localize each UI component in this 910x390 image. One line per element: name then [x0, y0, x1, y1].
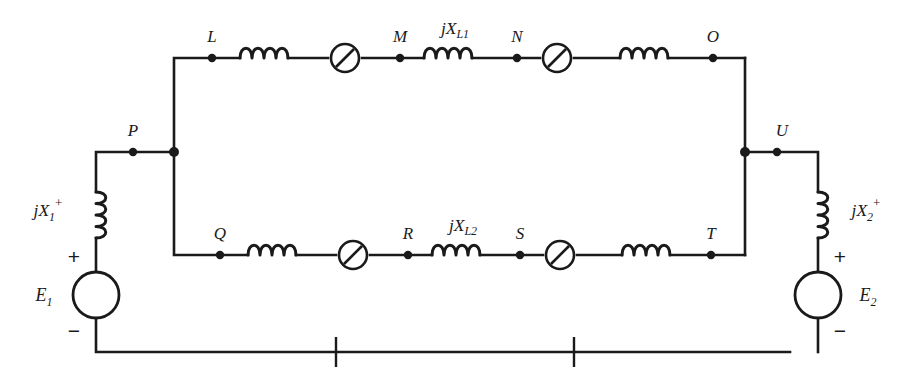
reactance-label-right-source: jX2+: [850, 195, 881, 224]
top-left-riser-wire: [174, 58, 240, 152]
voltage-source-icon-E2: [795, 272, 841, 318]
source-label-E1-sub: 1: [47, 295, 53, 309]
node-label-O: O: [707, 27, 719, 46]
right-source-top-wire: [745, 152, 818, 192]
node-label-R: R: [402, 224, 414, 243]
node-label-Q: Q: [214, 224, 226, 243]
node-label-L: L: [206, 27, 216, 46]
inductor-coil-icon-top-3: [620, 48, 668, 58]
source-label-E1: E1: [35, 285, 53, 309]
inductor-coil-icon-top-2: [424, 48, 472, 58]
schematic-svg: L M N O jXL1: [0, 0, 910, 390]
polarity-plus-E1: +: [68, 245, 80, 268]
source-label-E1-base: E: [35, 285, 47, 305]
inductor-coil-icon-bottom-3: [622, 245, 670, 255]
node-label-U: U: [776, 121, 790, 140]
inductor-coil-icon-top-1: [240, 48, 288, 58]
polarity-plus-E2: +: [834, 245, 846, 268]
circuit-breaker-icon-top-2: [543, 44, 571, 72]
reactance-label-top-sub: L1: [455, 27, 469, 41]
reactance-label-left-base: jX: [32, 200, 51, 220]
reactance-label-right-base: jX: [850, 200, 869, 220]
junction-dot-icon-T: [707, 251, 715, 259]
source-label-E2-sub: 2: [871, 295, 877, 309]
voltage-source-icon-E1: [73, 272, 119, 318]
reactance-label-right-sup: +: [873, 195, 880, 210]
reactance-label-bottom-base: jX: [447, 215, 466, 235]
node-label-S: S: [516, 224, 525, 243]
junction-dot-icon-Q: [216, 251, 224, 259]
node-label-N: N: [510, 27, 524, 46]
junction-dot-icon-right-riser: [740, 147, 750, 157]
junction-dot-icon-P: [129, 148, 137, 156]
inductor-coil-icon-bottom-2: [432, 245, 480, 255]
bottom-line-branch: Q R S T jXL2: [174, 152, 745, 269]
junction-dot-icon-M: [396, 54, 404, 62]
junction-dot-icon-S: [516, 251, 524, 259]
polarity-minus-E2: −: [834, 319, 846, 342]
inductor-coil-icon-left-source: [96, 192, 106, 238]
left-source-top-wire: [96, 152, 174, 192]
junction-dot-icon-O: [709, 54, 717, 62]
junction-dot-icon-N: [513, 54, 521, 62]
bottom-left-riser-wire: [174, 152, 248, 255]
junction-dot-icon-U: [773, 148, 781, 156]
inductor-coil-icon-right-source: [818, 192, 828, 238]
reactance-label-bottom-line: jXL2: [447, 215, 477, 238]
junction-dot-icon-R: [404, 251, 412, 259]
inductor-coil-icon-bottom-1: [248, 245, 296, 255]
junction-dot-icon-L: [208, 54, 216, 62]
circuit-breaker-icon-top-1: [331, 44, 359, 72]
node-label-P: P: [127, 121, 138, 140]
node-label-M: M: [392, 27, 408, 46]
reactance-label-top-line: jXL1: [439, 18, 469, 41]
circuit-breaker-icon-bottom-2: [546, 241, 574, 269]
node-label-T: T: [706, 224, 717, 243]
circuit-breaker-icon-bottom-1: [339, 241, 367, 269]
reactance-label-left-sub: 1: [49, 210, 55, 224]
reactance-label-left-sup: +: [55, 195, 62, 210]
reactance-label-bottom-sub: L2: [463, 224, 477, 238]
bottom-return-wire: [96, 318, 790, 352]
reactance-label-right-sub: 2: [867, 210, 873, 224]
source-label-E2: E2: [859, 285, 877, 309]
right-source-branch: U jX2+ + − E2: [740, 121, 880, 352]
circuit-diagram-canvas: L M N O jXL1: [0, 0, 910, 390]
polarity-minus-E1: −: [68, 319, 80, 342]
source-label-E2-base: E: [859, 285, 871, 305]
reactance-label-left-source: jX1+: [32, 195, 63, 224]
reactance-label-top-base: jX: [439, 18, 458, 38]
top-line-branch: L M N O jXL1: [174, 18, 745, 152]
junction-dot-icon-left-riser: [169, 147, 179, 157]
